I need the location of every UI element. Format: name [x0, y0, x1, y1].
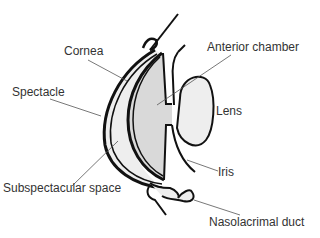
- label-cornea: Cornea: [64, 44, 103, 58]
- upper-lid-line: [150, 14, 178, 50]
- iris-upper-stalk: [173, 52, 178, 105]
- label-subspectacular-space: Subspectacular space: [3, 181, 121, 195]
- lens-shape: [177, 77, 213, 146]
- iris-top: [178, 45, 185, 52]
- eye-drawing: [0, 0, 320, 238]
- label-lens: Lens: [216, 104, 242, 118]
- label-spectacle: Spectacle: [12, 85, 65, 99]
- leader-subspectacular: [72, 141, 118, 186]
- label-iris: Iris: [218, 165, 234, 179]
- iris-lower-edge: [164, 125, 172, 180]
- leader-spectacle: [50, 99, 101, 116]
- leader-cornea: [88, 60, 127, 81]
- eye-diagram: Cornea Spectacle Subspectacular space An…: [0, 0, 320, 238]
- label-anterior-chamber: Anterior chamber: [207, 40, 299, 54]
- leader-nasolacrimal: [194, 200, 240, 215]
- label-nasolacrimal-duct: Nasolacrimal duct: [209, 215, 304, 229]
- nasolacrimal-duct-shape: [150, 183, 194, 201]
